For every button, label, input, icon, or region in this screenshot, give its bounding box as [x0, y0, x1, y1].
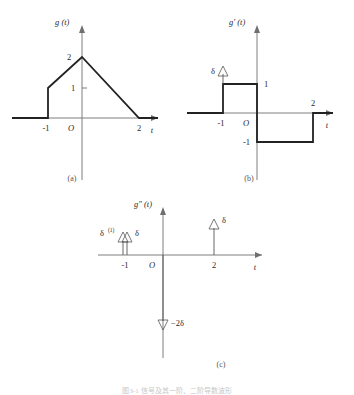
function-label: g (t) [55, 17, 70, 27]
x-tick-label-minus1: -1 [217, 118, 224, 128]
y-tick-label-2: 2 [67, 52, 71, 62]
y-tick-label-1: 1 [71, 83, 75, 93]
y-axis-arrow-icon [79, 25, 85, 33]
panel-a-plot: g (t) 2 1 -1 2 O t [0, 0, 177, 196]
x-tick-label-2: 2 [212, 260, 216, 270]
y-axis-arrow-icon [254, 25, 260, 33]
caption-panel-a: (a) [57, 174, 87, 183]
origin-label: O [149, 260, 155, 270]
delta-label-minus1: δ [135, 228, 139, 238]
function-label: g" (t) [134, 199, 152, 209]
panel-b-plot: δ g' (t) 1 -1 -1 2 O t [177, 0, 354, 196]
caption-panel-b: (b) [234, 174, 264, 183]
y-tick-label-minus1: -1 [243, 137, 250, 147]
signal-curve [12, 57, 158, 118]
delta-arrow-icon-2 [209, 219, 219, 229]
x-axis-label: t [326, 120, 329, 130]
x-axis-label: t [151, 125, 154, 135]
figure-bottom-note: 图3-1 信号及其一阶、二阶导数波形 [0, 385, 354, 395]
x-axis-label: t [254, 262, 257, 272]
doublet-superscript-label: (1) [108, 227, 115, 234]
panel-b-first-derivative: δ g' (t) 1 -1 -1 2 O t [177, 0, 354, 196]
panel-a-signal: g (t) 2 1 -1 2 O t [0, 0, 177, 196]
negative-impulse-label: −2δ [171, 318, 184, 328]
x-tick-label-minus1: -1 [121, 260, 128, 270]
x-axis-arrow-icon [255, 252, 262, 258]
y-axis-arrow-icon [160, 207, 166, 215]
function-label: g' (t) [229, 17, 245, 27]
origin-label: O [68, 123, 74, 133]
x-tick-label-2: 2 [137, 123, 141, 133]
impulse-label-delta: δ [211, 66, 215, 76]
caption-panel-c: (c) [206, 360, 236, 369]
x-tick-label-2: 2 [311, 98, 315, 108]
delta-label-2: δ [222, 215, 226, 225]
x-tick-label-minus1: -1 [42, 123, 49, 133]
origin-label: O [243, 118, 249, 128]
doublet-label: δ [100, 228, 104, 238]
y-tick-label-1: 1 [264, 79, 268, 89]
